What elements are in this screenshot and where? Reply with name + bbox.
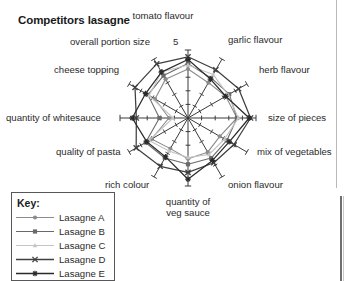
radar-series-lasagne-c [147, 63, 241, 160]
legend-item-lasagne-b: Lasagne B [15, 224, 114, 238]
axis-label-onion-flavour: onion flavour [228, 179, 283, 190]
legend-item-label: Lasagne B [59, 226, 105, 237]
axis-label-rich-colour: rich colour [105, 179, 149, 190]
legend-item-label: Lasagne E [59, 268, 105, 279]
radial-scale-max-label: 5 [173, 36, 178, 47]
legend-item-lasagne-c: Lasagne C [15, 238, 114, 252]
legend-item-lasagne-d: Lasagne D [15, 252, 114, 266]
legend-item-label: Lasagne A [59, 212, 104, 223]
legend-item-label: Lasagne D [59, 254, 105, 265]
axis-label-mix-of-vegetables: mix of vegetables [257, 146, 332, 157]
triangle-marker [15, 239, 55, 252]
axis-label-quantity-of-veg-sauce: quantity ofveg sauce [151, 196, 225, 218]
legend: Key: Lasagne ALasagne BLasagne CLasagne … [11, 192, 115, 281]
page-edge-shadow-secondary [343, 196, 344, 281]
legend-rows: Lasagne ALasagne BLasagne CLasagne DLasa… [12, 210, 114, 280]
circle-marker [15, 211, 55, 224]
radar-series-group [129, 54, 253, 182]
page-title: Competitors lasagne [18, 14, 130, 26]
radar-axis-ticks [120, 50, 256, 186]
axis-label-cheese-topping: cheese topping [54, 64, 119, 75]
chart-page: Competitors lasagne 5 tomato flavourgarl… [0, 0, 347, 281]
axis-label-herb-flavour: herb flavour [259, 64, 310, 75]
radar-axis-lines [120, 50, 256, 186]
page-edge-line [336, 0, 337, 188]
axis-label-overall-portion-size: overall portion size [70, 36, 150, 47]
radar-series-lasagne-d [132, 54, 253, 175]
cross-marker [15, 253, 55, 266]
radar-series-lasagne-b [143, 62, 239, 167]
asterisk-marker [15, 267, 55, 280]
axis-label-size-of-pieces: size of pieces [268, 112, 326, 123]
radar-series-lasagne-a [149, 67, 239, 161]
square-marker [15, 225, 55, 238]
axis-label-tomato-flavour: tomato flavour [133, 10, 194, 21]
axis-label-quantity-of-whitesauce: quantity of whitesauce [6, 112, 101, 123]
axis-label-garlic-flavour: garlic flavour [228, 34, 282, 45]
axis-label-quality-of-pasta: quality of pasta [56, 146, 121, 157]
legend-item-lasagne-a: Lasagne A [15, 210, 114, 224]
legend-item-label: Lasagne C [59, 240, 105, 251]
radar-series-lasagne-e [129, 57, 252, 182]
axis-label-line: quantity of [151, 196, 225, 207]
page-edge-shadow [340, 196, 342, 281]
axis-label-line: veg sauce [151, 207, 225, 218]
legend-title: Key: [17, 197, 114, 209]
legend-item-lasagne-e: Lasagne E [15, 266, 114, 280]
